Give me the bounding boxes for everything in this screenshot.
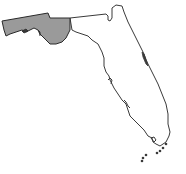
florida-keys (141, 143, 168, 163)
florida-map (0, 0, 186, 174)
florida-mainland (70, 5, 170, 146)
panhandle-region[interactable] (2, 13, 70, 44)
